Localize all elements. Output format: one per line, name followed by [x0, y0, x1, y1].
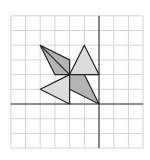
coordinate-grid-figure	[0, 0, 150, 160]
grid-plot	[0, 0, 150, 160]
